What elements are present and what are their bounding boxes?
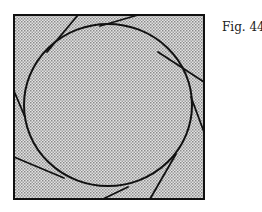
- figure-caption: Fig. 44: [222, 20, 262, 34]
- outer-square: [14, 15, 204, 199]
